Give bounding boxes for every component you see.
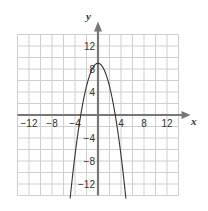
coordinate-plane: −12−8−448121284−4−8−12 x y xyxy=(0,0,208,211)
x-tick-label: 4 xyxy=(118,118,124,129)
y-tick-label: −4 xyxy=(84,133,96,144)
y-tick-label: 12 xyxy=(84,41,96,52)
x-axis-arrow-icon xyxy=(182,111,191,119)
x-tick-label: −8 xyxy=(46,118,58,129)
x-tick-label: −12 xyxy=(21,118,38,129)
y-axis-arrow-icon xyxy=(94,22,102,32)
x-axis-label: x xyxy=(190,115,197,127)
y-axis-label: y xyxy=(84,10,91,22)
x-tick-label: 8 xyxy=(141,118,147,129)
y-tick-label: −8 xyxy=(84,156,96,167)
y-tick-label: −12 xyxy=(78,179,95,190)
y-tick-label: 4 xyxy=(89,87,95,98)
axes xyxy=(18,22,191,196)
x-tick-label: 12 xyxy=(161,118,173,129)
